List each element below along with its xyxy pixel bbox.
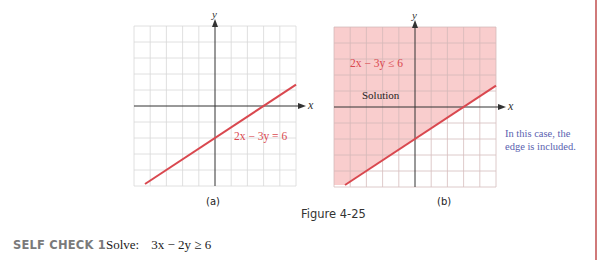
inequality-label-b: 2x − 3y ≤ 6	[350, 57, 403, 69]
self-check-heading: SELF CHECK 1	[13, 238, 106, 252]
x-axis-label-b: x	[508, 99, 513, 114]
solve-prompt: Solve:	[106, 237, 139, 252]
panel-label-b: (b)	[437, 196, 451, 207]
solve-expression: 3x − 2y ≥ 6	[151, 237, 211, 252]
solution-label: Solution	[362, 89, 399, 101]
margin-rule	[595, 0, 597, 260]
edge-note: In this case, the edge is included.	[505, 127, 585, 153]
figure-caption: Figure 4-25	[301, 207, 366, 221]
x-arrow-icon	[498, 104, 506, 110]
y-axis-label-b: y	[412, 9, 417, 21]
self-check-problem: Solve:3x − 2y ≥ 6	[106, 237, 211, 253]
y-arrow-icon	[412, 20, 418, 28]
